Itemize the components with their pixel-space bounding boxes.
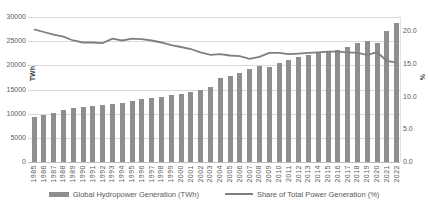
chart-canvas: 050001000015000200002500030000 0.05.010.…: [0, 0, 428, 207]
x-tick-1999: 1999: [166, 165, 175, 183]
legend-item-bars: Global Hydropower Generation (TWh): [49, 190, 199, 199]
x-tick-1985: 1985: [29, 165, 38, 183]
x-tick-2022: 2022: [392, 165, 401, 183]
x-tick-2005: 2005: [225, 165, 234, 183]
x-tick-1994: 1994: [117, 165, 126, 183]
x-tick-2006: 2006: [235, 165, 244, 183]
x-tick-2003: 2003: [205, 165, 214, 183]
x-tick-2002: 2002: [196, 165, 205, 183]
x-tick-2012: 2012: [294, 165, 303, 183]
x-tick-2016: 2016: [333, 165, 342, 183]
left-axis-title: TWh: [29, 66, 36, 81]
x-tick-1989: 1989: [68, 165, 77, 183]
x-tick-2015: 2015: [323, 165, 332, 183]
legend-label-line: Share of Total Power Generation (%): [257, 190, 379, 199]
left-tick-0: 0: [0, 158, 26, 166]
x-tick-2013: 2013: [303, 165, 312, 183]
x-axis-line: [28, 162, 400, 163]
legend-label-bars: Global Hydropower Generation (TWh): [73, 190, 199, 199]
x-tick-2004: 2004: [215, 165, 224, 183]
x-tick-2000: 2000: [176, 165, 185, 183]
x-tick-2020: 2020: [372, 165, 381, 183]
left-tick-10000: 10000: [0, 110, 26, 118]
right-tick-0.0: 0.0: [403, 158, 428, 166]
x-tick-2014: 2014: [313, 165, 322, 183]
x-tick-1990: 1990: [78, 165, 87, 183]
x-tick-1996: 1996: [137, 165, 146, 183]
x-tick-1992: 1992: [98, 165, 107, 183]
x-tick-2018: 2018: [352, 165, 361, 183]
x-tick-2010: 2010: [274, 165, 283, 183]
x-tick-2011: 2011: [284, 165, 293, 182]
left-tick-5000: 5000: [0, 134, 26, 142]
x-tick-2008: 2008: [254, 165, 263, 183]
share-line: [34, 29, 397, 62]
right-tick-15.0: 15.0: [403, 60, 428, 68]
line-series: [28, 17, 400, 162]
right-tick-20.0: 20.0: [403, 27, 428, 35]
line-swatch-icon: [225, 193, 253, 195]
x-tick-1987: 1987: [49, 165, 58, 183]
x-tick-2021: 2021: [382, 165, 391, 183]
legend-item-line: Share of Total Power Generation (%): [225, 190, 379, 199]
left-tick-20000: 20000: [0, 61, 26, 69]
left-axis-ticks: 050001000015000200002500030000: [0, 0, 26, 207]
x-tick-1995: 1995: [127, 165, 136, 183]
x-tick-1993: 1993: [107, 165, 116, 183]
left-tick-15000: 15000: [0, 86, 26, 94]
x-tick-2009: 2009: [264, 165, 273, 183]
right-tick-10.0: 10.0: [403, 93, 428, 101]
x-tick-2007: 2007: [245, 165, 254, 183]
left-tick-30000: 30000: [0, 13, 26, 21]
x-tick-1988: 1988: [58, 165, 67, 183]
bar-swatch-icon: [49, 192, 69, 197]
plot-area: [28, 17, 401, 162]
x-tick-1997: 1997: [147, 165, 156, 183]
x-tick-1998: 1998: [156, 165, 165, 183]
right-axis-ticks: 0.05.010.015.020.0: [403, 0, 428, 207]
right-axis-title: %: [419, 74, 426, 80]
legend: Global Hydropower Generation (TWh) Share…: [0, 187, 428, 201]
x-tick-2001: 2001: [186, 165, 195, 183]
x-tick-1986: 1986: [39, 165, 48, 183]
right-tick-5.0: 5.0: [403, 125, 428, 133]
x-tick-2017: 2017: [343, 165, 352, 183]
left-tick-25000: 25000: [0, 37, 26, 45]
x-tick-1991: 1991: [88, 165, 97, 183]
x-tick-2019: 2019: [362, 165, 371, 183]
